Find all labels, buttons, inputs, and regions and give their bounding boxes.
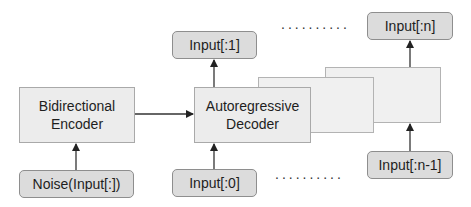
arrows-layer: [0, 0, 471, 207]
